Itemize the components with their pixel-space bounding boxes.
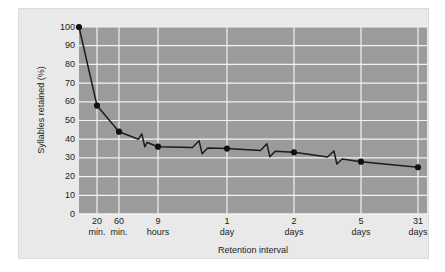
x-tick-unit: day <box>204 227 250 238</box>
y-tick-label: 20 <box>41 172 75 181</box>
data-series-layer <box>79 27 427 214</box>
x-tick-label: 31days <box>395 216 441 238</box>
data-point-marker <box>224 145 230 151</box>
x-tick-label: 9hours <box>135 216 181 238</box>
y-tick-label: 50 <box>41 116 75 125</box>
y-tick-label: 60 <box>41 97 75 106</box>
x-tick-unit: days <box>395 227 441 238</box>
data-line <box>79 27 418 167</box>
x-tick-value: 9 <box>135 216 181 227</box>
data-point-marker <box>94 102 100 108</box>
x-tick-label: 5days <box>338 216 384 238</box>
x-tick-label: 2days <box>271 216 317 238</box>
x-tick-value: 31 <box>395 216 441 227</box>
x-tick-unit: hours <box>135 227 181 238</box>
data-point-marker <box>76 24 82 30</box>
x-tick-value: 5 <box>338 216 384 227</box>
data-point-marker <box>116 129 122 135</box>
data-point-marker <box>155 144 161 150</box>
x-tick-unit: days <box>338 227 384 238</box>
y-tick-label: 80 <box>41 60 75 69</box>
x-tick-label: 1day <box>204 216 250 238</box>
y-axis-ticks: 0102030405060708090100 <box>37 27 75 214</box>
data-point-marker <box>291 149 297 155</box>
x-tick-value: 1 <box>204 216 250 227</box>
y-tick-label: 0 <box>41 210 75 219</box>
x-tick-value: 2 <box>271 216 317 227</box>
x-tick-unit: days <box>271 227 317 238</box>
y-tick-label: 40 <box>41 135 75 144</box>
y-tick-label: 30 <box>41 153 75 162</box>
x-axis-ticks: 20min.60min.9hours1day2days5days31days <box>79 216 427 248</box>
plot-area <box>79 27 427 214</box>
forgetting-curve-figure: Syllables retained (%) 01020304050607080… <box>0 0 445 272</box>
y-tick-label: 90 <box>41 41 75 50</box>
y-tick-label: 70 <box>41 79 75 88</box>
data-point-marker <box>415 164 421 170</box>
data-point-marker <box>358 159 364 165</box>
x-axis-title: Retention interval <box>79 245 427 255</box>
chart-card: Syllables retained (%) 01020304050607080… <box>18 8 429 259</box>
y-tick-label: 100 <box>41 23 75 32</box>
y-tick-label: 10 <box>41 191 75 200</box>
